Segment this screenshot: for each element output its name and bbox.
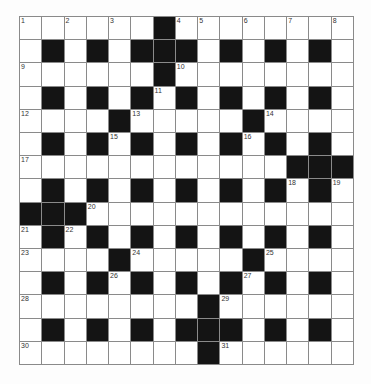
white-cell[interactable] xyxy=(65,342,86,364)
white-cell[interactable] xyxy=(65,319,86,341)
white-cell[interactable] xyxy=(176,110,197,132)
white-cell[interactable] xyxy=(309,342,330,364)
white-cell[interactable] xyxy=(332,249,353,271)
white-cell[interactable] xyxy=(20,319,41,341)
white-cell[interactable] xyxy=(20,87,41,109)
white-cell[interactable] xyxy=(309,63,330,85)
white-cell[interactable]: 4 xyxy=(176,17,197,39)
white-cell[interactable] xyxy=(154,179,175,201)
white-cell[interactable] xyxy=(154,156,175,178)
white-cell[interactable] xyxy=(176,342,197,364)
white-cell[interactable] xyxy=(332,226,353,248)
white-cell[interactable] xyxy=(154,133,175,155)
white-cell[interactable] xyxy=(332,40,353,62)
white-cell[interactable] xyxy=(287,319,308,341)
white-cell[interactable] xyxy=(243,226,264,248)
white-cell[interactable]: 5 xyxy=(198,17,219,39)
white-cell[interactable] xyxy=(309,295,330,317)
white-cell[interactable] xyxy=(332,87,353,109)
white-cell[interactable] xyxy=(287,133,308,155)
white-cell[interactable] xyxy=(220,203,241,225)
white-cell[interactable] xyxy=(109,295,130,317)
white-cell[interactable]: 31 xyxy=(220,342,241,364)
white-cell[interactable] xyxy=(287,110,308,132)
white-cell[interactable] xyxy=(198,133,219,155)
white-cell[interactable] xyxy=(20,40,41,62)
white-cell[interactable] xyxy=(42,156,63,178)
white-cell[interactable] xyxy=(109,156,130,178)
white-cell[interactable]: 13 xyxy=(131,110,152,132)
white-cell[interactable] xyxy=(65,133,86,155)
white-cell[interactable] xyxy=(287,87,308,109)
white-cell[interactable] xyxy=(65,295,86,317)
white-cell[interactable] xyxy=(131,295,152,317)
white-cell[interactable] xyxy=(42,63,63,85)
white-cell[interactable]: 10 xyxy=(176,63,197,85)
white-cell[interactable]: 8 xyxy=(332,17,353,39)
white-cell[interactable] xyxy=(87,249,108,271)
white-cell[interactable] xyxy=(154,203,175,225)
white-cell[interactable] xyxy=(42,342,63,364)
white-cell[interactable] xyxy=(287,342,308,364)
white-cell[interactable] xyxy=(154,272,175,294)
white-cell[interactable] xyxy=(42,17,63,39)
white-cell[interactable]: 21 xyxy=(20,226,41,248)
white-cell[interactable] xyxy=(265,156,286,178)
white-cell[interactable] xyxy=(265,17,286,39)
white-cell[interactable] xyxy=(198,272,219,294)
white-cell[interactable] xyxy=(198,179,219,201)
white-cell[interactable] xyxy=(220,156,241,178)
white-cell[interactable] xyxy=(109,342,130,364)
white-cell[interactable] xyxy=(332,319,353,341)
white-cell[interactable] xyxy=(287,203,308,225)
white-cell[interactable] xyxy=(309,17,330,39)
white-cell[interactable] xyxy=(198,249,219,271)
white-cell[interactable] xyxy=(154,249,175,271)
white-cell[interactable] xyxy=(287,40,308,62)
white-cell[interactable] xyxy=(309,249,330,271)
white-cell[interactable] xyxy=(332,272,353,294)
white-cell[interactable] xyxy=(109,40,130,62)
white-cell[interactable] xyxy=(243,295,264,317)
white-cell[interactable] xyxy=(243,156,264,178)
white-cell[interactable]: 7 xyxy=(287,17,308,39)
white-cell[interactable] xyxy=(109,226,130,248)
white-cell[interactable]: 12 xyxy=(20,110,41,132)
white-cell[interactable] xyxy=(243,342,264,364)
white-cell[interactable] xyxy=(131,342,152,364)
white-cell[interactable]: 2 xyxy=(65,17,86,39)
white-cell[interactable] xyxy=(109,203,130,225)
white-cell[interactable] xyxy=(20,133,41,155)
white-cell[interactable]: 22 xyxy=(65,226,86,248)
white-cell[interactable]: 26 xyxy=(109,272,130,294)
white-cell[interactable] xyxy=(243,87,264,109)
white-cell[interactable] xyxy=(287,249,308,271)
white-cell[interactable] xyxy=(243,63,264,85)
white-cell[interactable] xyxy=(309,203,330,225)
white-cell[interactable] xyxy=(198,40,219,62)
white-cell[interactable] xyxy=(87,17,108,39)
white-cell[interactable]: 6 xyxy=(243,17,264,39)
white-cell[interactable]: 24 xyxy=(131,249,152,271)
white-cell[interactable] xyxy=(131,203,152,225)
white-cell[interactable] xyxy=(265,203,286,225)
white-cell[interactable] xyxy=(65,156,86,178)
white-cell[interactable]: 30 xyxy=(20,342,41,364)
white-cell[interactable] xyxy=(243,179,264,201)
white-cell[interactable] xyxy=(87,63,108,85)
white-cell[interactable] xyxy=(220,249,241,271)
white-cell[interactable]: 23 xyxy=(20,249,41,271)
white-cell[interactable] xyxy=(65,87,86,109)
white-cell[interactable] xyxy=(42,110,63,132)
white-cell[interactable] xyxy=(287,272,308,294)
white-cell[interactable] xyxy=(332,203,353,225)
white-cell[interactable] xyxy=(198,156,219,178)
white-cell[interactable] xyxy=(20,272,41,294)
white-cell[interactable] xyxy=(243,203,264,225)
white-cell[interactable] xyxy=(265,342,286,364)
white-cell[interactable] xyxy=(332,63,353,85)
white-cell[interactable] xyxy=(42,249,63,271)
white-cell[interactable] xyxy=(131,63,152,85)
white-cell[interactable] xyxy=(87,295,108,317)
white-cell[interactable] xyxy=(131,156,152,178)
